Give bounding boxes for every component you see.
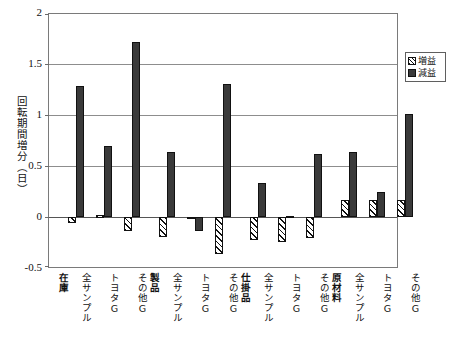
bar-genekii-9	[349, 152, 357, 217]
y-tick-1: 1	[0, 109, 42, 120]
chart-legend: 増益 減益	[405, 52, 446, 82]
tickmark-0-5	[45, 166, 49, 167]
legend-item-zouekii: 増益	[408, 55, 443, 67]
legend-label-zouekii: 増益	[418, 57, 436, 66]
bar-genekii-0	[76, 86, 84, 217]
legend-swatch-solid-icon	[408, 69, 416, 77]
tickmark-1-5	[45, 64, 49, 65]
tickmark-neg-0-5	[45, 266, 49, 267]
legend-item-genekii: 減益	[408, 67, 443, 79]
y-tick-1-5: 1.5	[0, 58, 42, 69]
bar-genekii-6	[258, 183, 266, 217]
bar-zouekii-0	[68, 217, 76, 223]
x-group-label-seihin: 製品	[147, 273, 159, 293]
bar-genekii-11	[405, 114, 413, 217]
x-label-zaiko-toyota: トヨタG	[107, 273, 119, 314]
x-group-label-shikakarihin: 仕掛品	[238, 273, 250, 303]
x-label-seihin-all: 全サンプル	[170, 273, 182, 323]
bar-genekii-3	[167, 152, 175, 217]
y-tick-0: 0	[0, 211, 42, 222]
y-tick-0-5: 0.5	[0, 160, 42, 171]
bar-zouekii-2	[124, 217, 132, 231]
tickmark-1	[45, 115, 49, 116]
x-label-shikakarihin-all: 全サンプル	[261, 273, 273, 323]
x-label-seihin-other: その他G	[226, 273, 238, 314]
bar-zouekii-1	[96, 215, 104, 218]
bar-genekii-1	[104, 146, 112, 217]
x-label-zaiko-all: 全サンプル	[79, 273, 91, 323]
bar-genekii-8	[314, 154, 322, 217]
legend-swatch-hatched-icon	[408, 57, 416, 65]
x-group-label-zaiko: 在庫	[56, 273, 68, 293]
bar-zouekii-6	[250, 217, 258, 240]
legend-label-genekii: 減益	[418, 69, 436, 78]
y-tick-2: 2	[0, 7, 42, 18]
tickmark-0	[45, 217, 49, 218]
bar-zouekii-5	[215, 217, 223, 254]
gridline-1-5	[49, 64, 397, 65]
bar-genekii-5	[223, 84, 231, 217]
bar-zouekii-11	[397, 200, 405, 217]
bar-zouekii-8	[306, 217, 314, 238]
bar-genekii-10	[377, 192, 385, 217]
x-label-zaiko-other: その他G	[135, 273, 147, 314]
bar-zouekii-4	[187, 217, 195, 219]
x-label-shikakarihin-toyota: トヨタG	[289, 273, 301, 314]
bar-zouekii-9	[341, 200, 349, 217]
x-label-genzairyou-toyota: トヨタG	[380, 273, 392, 314]
x-label-genzairyou-other: その他G	[408, 273, 420, 314]
bar-genekii-4	[195, 217, 203, 231]
tickmark-2	[45, 14, 49, 15]
x-axis-labels: 在庫 全サンプル トヨタG その他G 製品 全サンプル トヨタG その他G 仕掛…	[0, 273, 449, 337]
y-tick-neg-0-5: -0.5	[0, 262, 42, 273]
chart-root: 回転期間増分（日） 2 1.5 1 0.5 0 -0.5	[0, 0, 449, 337]
bar-zouekii-7	[278, 217, 286, 242]
x-label-genzairyou-all: 全サンプル	[352, 273, 364, 323]
bar-genekii-2	[132, 42, 140, 217]
bar-genekii-7	[286, 216, 294, 218]
plot-area	[48, 13, 398, 268]
bar-zouekii-3	[159, 217, 167, 237]
x-group-label-genzairyou: 原材料	[329, 273, 341, 303]
x-label-shikakarihin-other: その他G	[317, 273, 329, 314]
x-label-seihin-toyota: トヨタG	[198, 273, 210, 314]
bar-zouekii-10	[369, 200, 377, 217]
